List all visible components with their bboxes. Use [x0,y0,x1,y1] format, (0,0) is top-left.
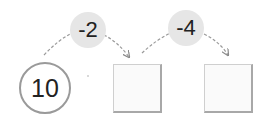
start-value-circle: 10 [19,62,71,114]
operation-1-label: -2 [78,17,98,43]
answer-box-2[interactable] [204,64,253,113]
arrow-step-2-in [142,32,172,53]
start-value: 10 [31,74,59,103]
operation-2-label: -4 [176,15,196,41]
operation-bubble-1: -2 [70,12,106,48]
arrow-step-1-out [104,35,129,57]
decorative-dot [87,75,89,77]
arrow-step-1-in [44,33,72,55]
answer-box-1[interactable] [113,64,162,113]
operation-bubble-2: -4 [168,10,204,46]
arrow-step-2-out [204,34,228,55]
